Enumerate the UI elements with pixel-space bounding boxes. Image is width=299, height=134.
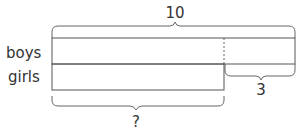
- total-label: 10: [165, 4, 184, 22]
- boys-bar: [52, 38, 295, 64]
- row-label-girls: girls: [8, 68, 40, 86]
- row-label-boys: boys: [6, 44, 42, 62]
- tape-diagram: 10 3 ? boys girls: [0, 0, 299, 134]
- total-brace: [52, 22, 295, 38]
- difference-brace: [225, 64, 295, 80]
- girls-bar: [52, 64, 224, 90]
- unknown-label: ?: [132, 113, 140, 131]
- unknown-brace: [52, 96, 224, 110]
- difference-label: 3: [256, 81, 266, 99]
